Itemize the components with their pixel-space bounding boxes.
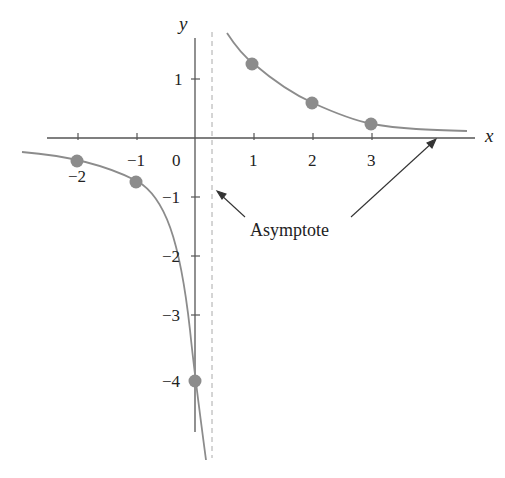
x-tick-label: −2 [68, 167, 86, 186]
y-tick-label: −4 [162, 372, 181, 391]
chart: y x 0 −2 −1 1 2 3 1 −1 −2 −3 −4 Asymptot… [0, 0, 505, 478]
data-points [71, 58, 378, 388]
x-tick-label: 1 [249, 151, 258, 170]
x-tick-label: −1 [127, 151, 145, 170]
origin-label: 0 [172, 151, 181, 170]
x-tick-label: 3 [367, 151, 376, 170]
x-axis-label: x [484, 125, 494, 146]
x-ticks [78, 133, 372, 140]
y-tick-label: −2 [162, 247, 180, 266]
curve-right-branch [227, 33, 467, 131]
y-tick-label: −1 [162, 188, 180, 207]
y-tick-label: −3 [162, 306, 180, 325]
x-tick-label: 2 [308, 151, 317, 170]
asymptote-annotation: Asymptote [250, 220, 329, 240]
y-axis-label: y [177, 13, 188, 34]
y-tick-label: 1 [174, 70, 183, 89]
